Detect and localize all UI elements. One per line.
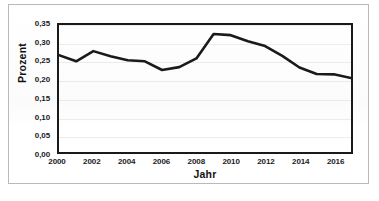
x-tick-label: 2000	[48, 157, 65, 166]
series-line	[59, 34, 351, 78]
figure-frame: 0,350,300,250,200,150,100,050,00 Prozent…	[8, 4, 369, 184]
y-tick-label: 0,10	[35, 112, 50, 121]
x-tick-label: 2004	[118, 157, 135, 166]
y-tick-label: 0,20	[35, 75, 50, 84]
x-axis-title: Jahr	[57, 168, 353, 180]
data-line-series	[59, 25, 351, 152]
x-tick-label: 2002	[83, 157, 100, 166]
y-tick-label: 0,05	[35, 131, 50, 140]
y-axis-title: Prozent	[16, 28, 28, 98]
plot-area	[57, 23, 353, 154]
x-tick-label: 2006	[153, 157, 170, 166]
y-tick-label: 0,25	[35, 56, 50, 65]
x-tick-label: 2012	[257, 157, 274, 166]
x-tick-label: 2014	[292, 157, 309, 166]
x-tick-label: 2016	[327, 157, 344, 166]
y-tick-label: 0,30	[35, 37, 50, 46]
y-tick-label: 0,15	[35, 93, 50, 102]
x-tick-label: 2008	[188, 157, 205, 166]
y-tick-label: 0,35	[35, 19, 50, 28]
x-tick-label: 2010	[222, 157, 239, 166]
